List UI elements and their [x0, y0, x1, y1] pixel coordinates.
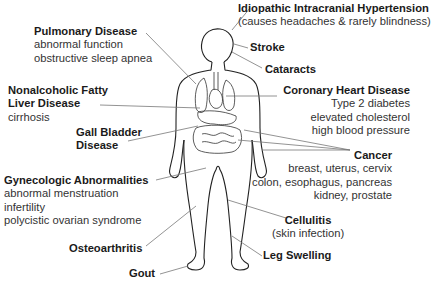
cancer-line-3: kidney, prostate	[252, 189, 392, 202]
gallbladder-title-2: Disease	[76, 139, 142, 152]
gout-title: Gout	[129, 267, 155, 280]
cataracts-title: Cataracts	[265, 63, 316, 76]
label-stroke: Stroke	[250, 41, 285, 54]
leg-title: Leg Swelling	[263, 249, 331, 262]
label-gynecologic-abnormalities: Gynecologic Abnormalities abnormal menst…	[4, 174, 148, 227]
label-gall-bladder-disease: Gall Bladder Disease	[76, 126, 142, 153]
cancer-title: Cancer	[252, 149, 392, 162]
nafld-line-1: cirrhosis	[8, 111, 108, 124]
iih-line-1: (causes headaches & rarely blindness)	[238, 15, 431, 28]
osteo-title: Osteoarthritis	[69, 242, 142, 255]
cancer-line-1: breast, uterus, cervix	[252, 162, 392, 175]
stroke-title: Stroke	[250, 41, 285, 54]
label-cancer: Cancer breast, uterus, cervix colon, eso…	[252, 149, 392, 202]
label-gout: Gout	[129, 267, 155, 280]
pulmonary-line-1: abnormal function	[34, 38, 152, 51]
chd-line-2: elevated cholesterol	[283, 111, 410, 124]
chd-line-3: high blood pressure	[283, 124, 410, 137]
gyn-line-1: abnormal menstruation	[4, 187, 148, 200]
gyn-line-3: polycistic ovarian syndrome	[4, 214, 148, 227]
pulmonary-title: Pulmonary Disease	[34, 25, 152, 38]
label-osteoarthritis: Osteoarthritis	[69, 242, 142, 255]
iih-title: Idiopathic Intracranial Hypertension	[238, 2, 431, 15]
organs	[193, 72, 241, 153]
cellulitis-title: Cellulitis	[272, 214, 344, 227]
pulmonary-line-2: obstructive sleep apnea	[34, 52, 152, 65]
cancer-line-2: colon, esophagus, pancreas	[252, 176, 392, 189]
label-leg-swelling: Leg Swelling	[263, 249, 331, 262]
gyn-title: Gynecologic Abnormalities	[4, 174, 148, 187]
gyn-line-2: infertility	[4, 201, 148, 214]
label-cellulitis: Cellulitis (skin infection)	[272, 214, 344, 241]
cellulitis-line-1: (skin infection)	[272, 227, 344, 240]
label-coronary-heart-disease: Coronary Heart Disease Type 2 diabetes e…	[283, 84, 410, 137]
label-iih: Idiopathic Intracranial Hypertension (ca…	[238, 2, 431, 29]
nafld-title-2: Liver Disease	[8, 97, 108, 110]
gallbladder-title-1: Gall Bladder	[76, 126, 142, 139]
label-cataracts: Cataracts	[265, 63, 316, 76]
nafld-title-1: Nonalcoholic Fatty	[8, 84, 108, 97]
label-pulmonary-disease: Pulmonary Disease abnormal function obst…	[34, 25, 152, 65]
chd-title: Coronary Heart Disease	[283, 84, 410, 97]
label-nafld: Nonalcoholic Fatty Liver Disease cirrhos…	[8, 84, 108, 124]
chd-line-1: Type 2 diabetes	[283, 97, 410, 110]
